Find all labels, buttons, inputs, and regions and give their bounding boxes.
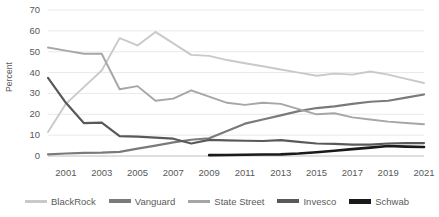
- legend-label: Invesco: [303, 196, 336, 207]
- legend-label: Vanguard: [135, 196, 176, 207]
- legend-swatch-icon: [25, 200, 47, 203]
- legend-label: Schwab: [375, 196, 409, 207]
- legend-swatch-icon: [188, 200, 210, 203]
- legend-item-state-street[interactable]: State Street: [188, 196, 264, 207]
- legend-item-schwab[interactable]: Schwab: [349, 196, 409, 207]
- legend-swatch-icon: [277, 199, 299, 203]
- series-line-schwab: [209, 146, 424, 155]
- series-line-invesco: [48, 78, 424, 145]
- legend-item-vanguard[interactable]: Vanguard: [109, 196, 176, 207]
- legend-item-invesco[interactable]: Invesco: [277, 196, 336, 207]
- legend-swatch-icon: [109, 199, 131, 203]
- chart-legend: BlackRockVanguardState StreetInvescoSchw…: [0, 192, 434, 210]
- legend-item-blackrock[interactable]: BlackRock: [25, 196, 96, 207]
- legend-label: BlackRock: [51, 196, 96, 207]
- legend-label: State Street: [214, 196, 264, 207]
- series-line-blackrock: [48, 32, 424, 132]
- legend-swatch-icon: [349, 199, 371, 204]
- series-line-state-street: [48, 48, 424, 125]
